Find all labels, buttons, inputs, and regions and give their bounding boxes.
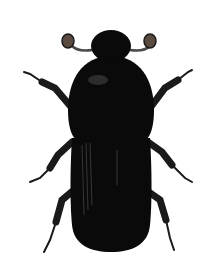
- pronotum-highlight: [88, 75, 108, 85]
- antenna-club-right: [144, 34, 156, 48]
- beetle-image: Black bark beetle illustration, dorsal v…: [0, 0, 209, 276]
- antenna-club-left: [62, 34, 74, 48]
- pronotum: [68, 56, 154, 140]
- beetle-illustration: [0, 0, 209, 276]
